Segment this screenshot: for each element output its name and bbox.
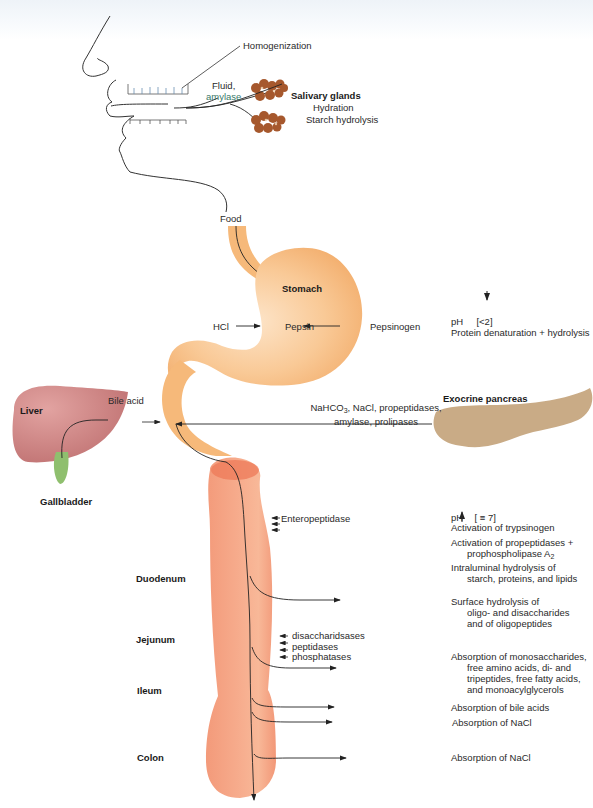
small-intestine-shape [206, 458, 276, 798]
duodenal-bulb [162, 360, 232, 456]
liver-title: Liver [20, 405, 43, 416]
hcl-label: HCl [213, 321, 229, 332]
face-outline [83, 16, 227, 212]
stomach-ph-note: pH [<2] [451, 316, 493, 327]
pepsinogen-label: Pepsinogen [370, 321, 420, 332]
surface-line3: and of oligopeptides [451, 618, 569, 629]
gallbladder-title: Gallbladder [40, 496, 92, 507]
ph-value: [<2] [476, 316, 492, 327]
food-label: Food [220, 213, 242, 224]
sub-2: 2 [550, 553, 554, 560]
intraluminal-line1: Intraluminal hydrolysis of [451, 562, 577, 573]
absorption-note: Absorption of monosaccharides, free amin… [451, 651, 587, 695]
salivary-gland-upper [251, 79, 288, 101]
intraluminal-line2: starch, proteins, and lipids [451, 573, 577, 584]
propeptidases-line2: prophospholipase A [467, 548, 550, 559]
brush-border-enzymes: disaccharidsases peptidases phosphatases [292, 631, 365, 663]
stomach-shape [168, 248, 362, 394]
absorb-line1: Absorption of monosaccharides, [451, 651, 587, 662]
pepsin-label: Pepsin [285, 321, 314, 332]
salivary-gland-lower [251, 111, 286, 133]
exocrine-pancreas-title: Exocrine pancreas [443, 393, 528, 404]
propeptidases-note: Activation of propeptidases + prophospho… [451, 537, 577, 584]
fluid-text: Fluid, [206, 80, 241, 91]
amylase-text: amylase [206, 91, 241, 102]
secretion-rest: , NaCl, propeptidases, [348, 402, 442, 413]
homogenization-label: Homogenization [243, 40, 312, 51]
trypsinogen-note: Activation of trypsinogen [451, 522, 555, 533]
bile-acid-label: Bile acid [108, 395, 144, 406]
bile-absorption-note: Absorption of bile acids [451, 702, 549, 713]
segment-ileum: Ileum [137, 685, 162, 696]
saliva-fluid-label: Fluid, amylase [206, 80, 241, 102]
absorb-line2: free amino acids, di- and [451, 662, 587, 673]
surface-line2: oligo- and disaccharides [451, 607, 569, 618]
nahco-text: NaHCO [310, 402, 343, 413]
enteropeptidase-label: Enteropeptidase [281, 513, 350, 524]
nacl-absorption-ileum: Absorption of NaCl [452, 717, 532, 728]
nacl-absorption-colon: Absorption of NaCl [451, 752, 531, 763]
absorb-line3: tripeptides, free fatty acids, [451, 673, 587, 684]
ph-text: pH [451, 316, 463, 327]
segment-duodenum: Duodenum [136, 573, 186, 584]
stomach-title: Stomach [282, 283, 322, 294]
absorb-line4: and monoacylglycerols [451, 684, 587, 695]
enzyme-phosphatases: phosphatases [292, 652, 365, 663]
propeptidases-line1: Activation of propeptidases + [451, 537, 577, 548]
starch-hydrolysis-label: Starch hydrolysis [306, 114, 378, 125]
segment-colon: Colon [137, 752, 164, 763]
enzyme-disaccharidases: disaccharidsases [292, 631, 365, 642]
segment-jejunum: Jejunum [136, 634, 175, 645]
salivary-glands-title: Salivary glands [291, 90, 361, 101]
hydration-label: Hydration [313, 102, 354, 113]
pancreatic-secretions-label: NaHCO3, NaCl, propeptidases, amylase, pr… [308, 402, 444, 427]
secretion-line2: amylase, prolipases [308, 416, 444, 427]
surface-hydrolysis-note: Surface hydrolysis of oligo- and disacch… [451, 596, 569, 629]
surface-line1: Surface hydrolysis of [451, 596, 569, 607]
protein-denaturation-label: Protein denaturation + hydrolysis [451, 327, 590, 338]
gallbladder-shape [54, 452, 69, 484]
